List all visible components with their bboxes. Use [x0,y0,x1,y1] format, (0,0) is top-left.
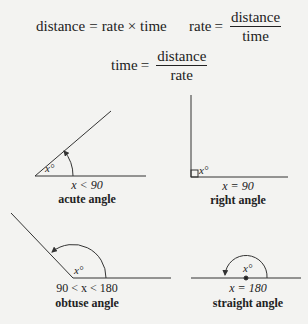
obtuse-angle-variable: x° [74,264,83,276]
obtuse-angle-figure [11,213,171,278]
acute-angle-condition: x < 90 [71,178,102,193]
obtuse-angle-name: obtuse angle [55,296,119,311]
acute-angle-name: acute angle [58,192,116,207]
right-angle-name: right angle [210,193,266,208]
straight-angle-name: straight angle [213,296,283,311]
right-angle-condition: x = 90 [222,179,253,194]
straight-angle-condition: x = 180 [229,281,266,296]
right-angle-variable: x° [199,164,208,176]
acute-angle-variable: x° [45,162,54,174]
straight-angle-variable: x° [243,262,252,274]
obtuse-angle-condition: 90 < x < 180 [56,281,118,296]
